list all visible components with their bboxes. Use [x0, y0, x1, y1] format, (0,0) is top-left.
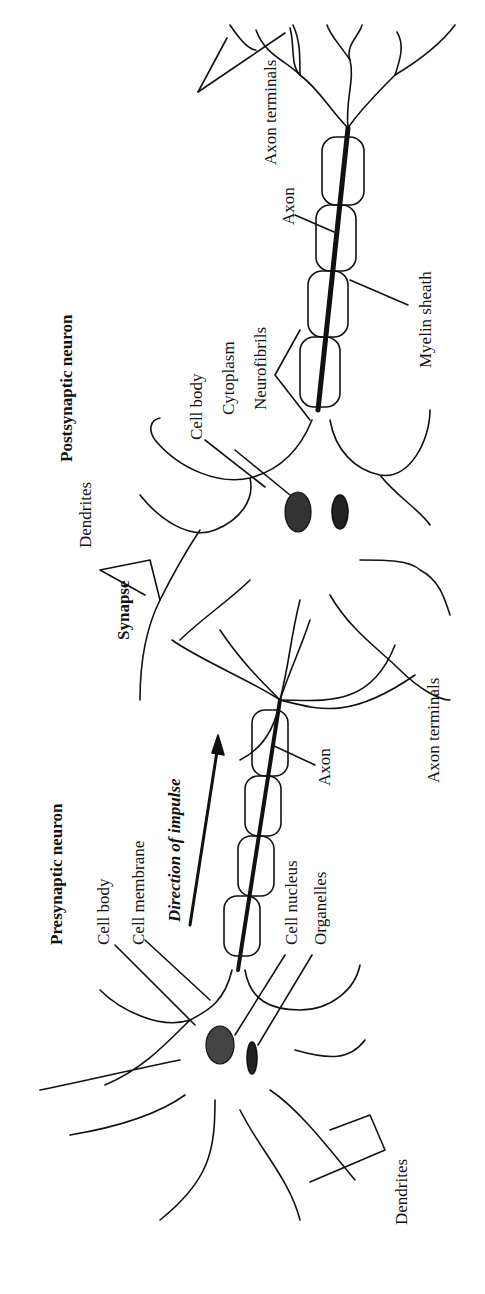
direction-label: Direction of impulse — [166, 778, 183, 922]
direction-arrow — [190, 745, 218, 925]
presynaptic-myelin-sheath — [224, 710, 288, 956]
post-axon-label: Axon — [280, 187, 297, 225]
pre-dendrites-label: Dendrites — [393, 1159, 410, 1225]
pre-cell-nucleus-label: Cell nucleus — [283, 860, 300, 945]
pointer-line — [275, 330, 310, 420]
neuron-drawing — [0, 0, 485, 1294]
synapse-label: Synapse — [115, 580, 132, 640]
post-cell-body-label: Cell body — [188, 373, 205, 440]
postsynaptic-cell-body — [140, 410, 450, 760]
postsynaptic-title: Postsynaptic neuron — [58, 314, 75, 462]
pointer-line — [272, 745, 315, 765]
pointer-line — [235, 955, 312, 1045]
presynaptic-title: Presynaptic neuron — [48, 803, 65, 945]
pointer-line — [198, 38, 227, 92]
pre-cell-membrane-label: Cell membrane — [130, 841, 147, 945]
pointer-line — [205, 440, 290, 495]
neuron-diagram: Postsynaptic neuron Axon terminals Axon … — [0, 0, 485, 1294]
pre-axon-terminals-label: Axon terminals — [425, 678, 442, 783]
post-neurofibrils-label: Neurofibrils — [252, 327, 269, 410]
pointer-line — [115, 940, 210, 1025]
post-myelin-label: Myelin sheath — [417, 271, 434, 368]
presynaptic-cell-body — [40, 965, 365, 1220]
pointer-line — [295, 215, 334, 232]
post-dendrites-label: Dendrites — [77, 482, 94, 548]
post-axon-terminals-label: Axon terminals — [262, 60, 279, 165]
pre-cell-body-label: Cell body — [95, 878, 112, 945]
pointer-line — [350, 280, 408, 305]
pre-axon-label: Axon — [316, 748, 333, 786]
pre-organelles-label: Organelles — [312, 872, 329, 945]
arrow-head-icon — [212, 735, 224, 755]
post-cytoplasm-label: Cytoplasm — [220, 341, 237, 415]
